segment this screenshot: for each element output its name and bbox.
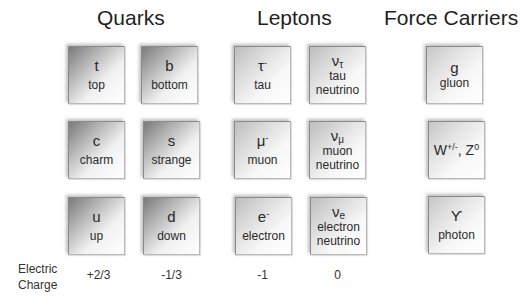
particle-name: tau (254, 79, 271, 93)
particle-name: gluon (440, 77, 469, 91)
particle-symbol: ϒ (451, 207, 463, 224)
particle-symbol: ντ (332, 52, 343, 71)
particle-name: muon (247, 154, 277, 168)
particle-name: neutrino (316, 159, 359, 173)
particle-card-muon-neutrino: νμ muon neutrino (309, 121, 366, 179)
charge-value-charged-leptons: -1 (234, 268, 291, 282)
particle-name: electron (242, 230, 285, 244)
particle-symbol: μ- (257, 132, 269, 149)
particle-card-tau: τ- tau (234, 46, 291, 104)
particle-name: charm (80, 154, 113, 168)
particle-name: muon (322, 145, 352, 159)
particle-symbol: νe (332, 203, 345, 222)
particle-name: tau (329, 70, 346, 84)
particle-name: photon (438, 229, 475, 243)
particle-symbol: s (168, 132, 176, 149)
charge-label-line1: Electric (18, 262, 57, 278)
heading-quarks: Quarks (97, 6, 165, 30)
electric-charge-label: Electric Charge (18, 262, 57, 293)
particle-card-up-quark: u up (68, 197, 125, 255)
particle-name: neutrino (316, 84, 359, 98)
particle-symbol: e- (258, 208, 269, 225)
particle-card-electron-neutrino: νe electron neutrino (310, 197, 367, 255)
particle-card-w-z-bosons: W+/-, Z0 (428, 121, 485, 179)
heading-force-carriers: Force Carriers (384, 6, 518, 30)
charge-value-neutrinos: 0 (309, 268, 366, 282)
charge-value-up-type-quarks: +2/3 (70, 268, 127, 282)
particle-name: up (90, 230, 103, 244)
particle-card-down-quark: d down (143, 197, 200, 255)
particle-card-gluon: g gluon (426, 46, 483, 104)
particle-card-charm-quark: c charm (68, 121, 125, 179)
particle-symbol: τ- (258, 57, 267, 74)
particle-card-photon: ϒ photon (428, 196, 485, 254)
particle-name: electron (317, 221, 360, 235)
particle-name: down (157, 230, 186, 244)
particle-name: strange (151, 154, 191, 168)
particle-symbol: u (92, 208, 100, 225)
particle-name: neutrino (317, 235, 360, 249)
particle-symbol: c (93, 132, 101, 149)
particle-card-bottom-quark: b bottom (141, 46, 198, 104)
particle-name: top (88, 79, 105, 93)
particle-symbol: d (167, 208, 175, 225)
particle-card-strange-quark: s strange (143, 121, 200, 179)
particle-card-tau-neutrino: ντ tau neutrino (309, 46, 366, 104)
particle-symbol: t (94, 57, 98, 74)
particle-card-top-quark: t top (68, 46, 125, 104)
charge-label-line2: Charge (18, 278, 57, 294)
heading-leptons: Leptons (257, 6, 332, 30)
charge-value-down-type-quarks: -1/3 (143, 268, 200, 282)
particle-symbol: b (165, 57, 173, 74)
particle-symbol: νμ (331, 127, 344, 146)
particle-name: bottom (151, 79, 188, 93)
particle-symbol: W+/-, Z0 (434, 142, 479, 158)
particle-symbol: g (450, 59, 458, 76)
particle-card-electron: e- electron (235, 197, 292, 255)
particle-card-muon: μ- muon (234, 121, 291, 179)
